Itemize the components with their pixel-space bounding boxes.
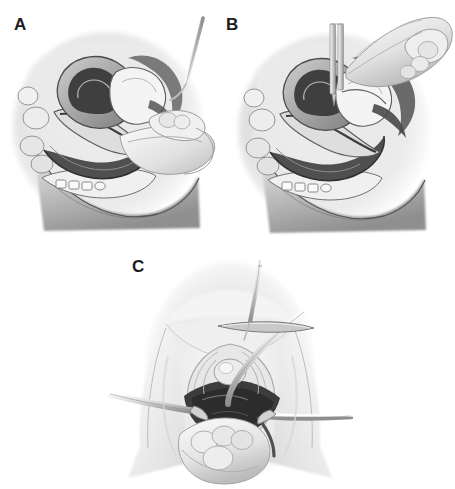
panel-b-illustration bbox=[222, 0, 455, 245]
panel-a: A bbox=[0, 0, 220, 245]
figure-sheet: A bbox=[0, 0, 455, 489]
assisting-hand bbox=[178, 418, 270, 484]
panel-c-illustration bbox=[108, 248, 353, 489]
panel-a-illustration bbox=[0, 0, 220, 245]
panel-c: C bbox=[108, 248, 353, 489]
panel-b: B bbox=[222, 0, 455, 245]
